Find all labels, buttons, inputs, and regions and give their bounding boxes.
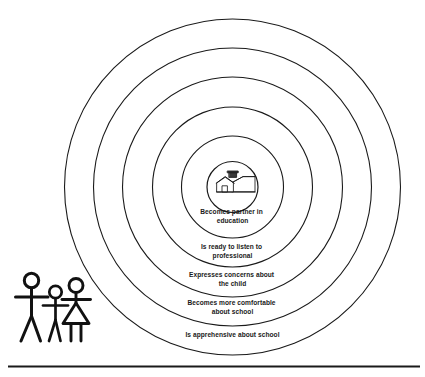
ring-label-apprehensive: Is apprehensive about school [185, 331, 279, 339]
adult-right-head [69, 279, 83, 293]
adult-left-head [24, 273, 38, 287]
child-middle-head [49, 286, 61, 298]
schoolhouse-belltower-cap [228, 171, 239, 173]
diagram-canvas: Becomes partner in education Is ready to… [0, 0, 425, 377]
schoolhouse-door [222, 186, 227, 192]
